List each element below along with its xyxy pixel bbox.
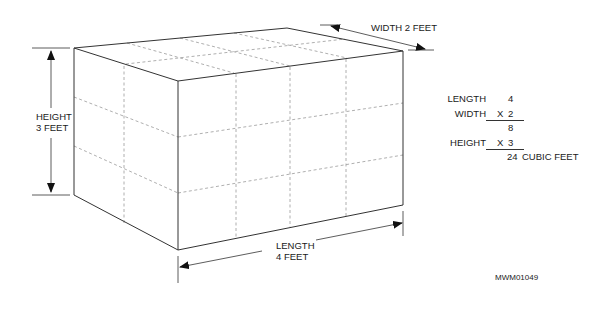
top-face-grid — [126, 33, 347, 73]
calc-value: 2 — [508, 107, 513, 121]
height-label-line1: HEIGHT — [36, 111, 72, 122]
length-label-line1: LENGTH — [276, 240, 315, 251]
calc-unit: CUBIC FEET — [522, 150, 578, 164]
box-outline — [74, 28, 403, 250]
calc-label: LENGTH — [442, 92, 486, 106]
calc-value: 3 — [508, 136, 513, 150]
figure-id: MWM01049 — [495, 272, 538, 283]
calc-operator: X — [497, 136, 503, 150]
side-face-grid — [74, 66, 178, 223]
calc-rule — [486, 149, 524, 150]
length-label: LENGTH 4 FEET — [276, 240, 315, 262]
length-label-line2: 4 FEET — [276, 251, 315, 262]
calc-label: WIDTH — [442, 107, 486, 121]
calc-rule — [486, 120, 524, 121]
height-label-line2: 3 FEET — [36, 122, 72, 133]
calc-operator: X — [497, 107, 503, 121]
front-face-grid — [178, 59, 403, 238]
height-label: HEIGHT 3 FEET — [36, 111, 72, 133]
calc-value: 8 — [508, 121, 513, 135]
calc-label: HEIGHT — [442, 136, 486, 150]
calc-result: 24 — [507, 150, 518, 164]
width-label: WIDTH 2 FEET — [371, 22, 437, 33]
calc-value: 4 — [508, 92, 513, 106]
